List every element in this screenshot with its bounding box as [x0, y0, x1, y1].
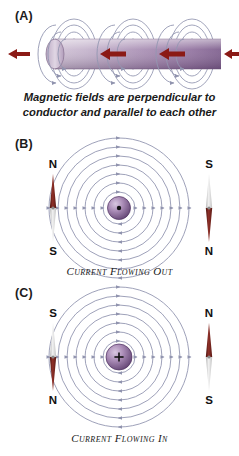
conductor-cross-section	[108, 197, 131, 220]
panel-c-illustration: S	[0, 283, 239, 456]
compass-c-left-needle	[38, 320, 68, 394]
current-out-of-page-dot	[117, 206, 121, 210]
compass-c-left: S	[38, 307, 68, 407]
compass-b-left-bottom-pole: S	[38, 245, 68, 258]
compass-b-right-bottom-pole: N	[194, 245, 224, 258]
compass-b-right: S	[194, 158, 224, 258]
compass-b-left: N	[38, 158, 68, 258]
compass-c-right: N	[194, 307, 224, 407]
panel-b-illustration: N	[0, 134, 239, 282]
caption-a-line2: conductor and parallel to each other	[0, 105, 239, 120]
caption-a-line1: Magnetic fields are perpendicular to	[0, 90, 239, 105]
panel-a-illustration	[0, 18, 239, 90]
conductor-rod	[46, 39, 221, 69]
compass-b-left-needle	[38, 171, 68, 245]
compass-b-right-top-pole: S	[194, 158, 224, 171]
compass-c-right-top-pole: N	[194, 307, 224, 320]
compass-c-left-top-pole: S	[38, 307, 68, 320]
compass-c-right-bottom-pole: S	[194, 394, 224, 407]
compass-c-right-needle	[194, 320, 224, 394]
caption-panel-c: Current Flowing In	[0, 432, 239, 444]
compass-b-right-needle	[194, 171, 224, 245]
magnetic-field-figure: (A)	[0, 0, 239, 456]
caption-panel-b: Current Flowing Out	[0, 265, 239, 277]
caption-panel-a: Magnetic fields are perpendicular to con…	[0, 90, 239, 120]
compass-c-left-bottom-pole: N	[38, 394, 68, 407]
compass-b-left-top-pole: N	[38, 158, 68, 171]
conductor-cross-section	[106, 344, 132, 370]
